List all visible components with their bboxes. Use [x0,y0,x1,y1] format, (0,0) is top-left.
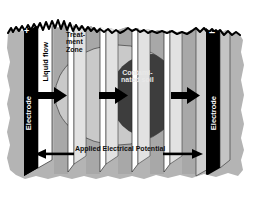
applied-potential-label: Applied Electrical Potential [75,145,165,152]
anode-sign-label: + [24,26,29,36]
cathode-sign-label: – [209,26,215,38]
electrode-left-label: Electrode [25,96,33,130]
electrode-right-label: Electrode [210,96,218,130]
treatment-zone-label: Treat- ment Zone [66,31,85,53]
contaminated-soil-label: Contami- nated soil [121,69,154,84]
electrokinetic-remediation-figure: Electrode Electrode Liquid flow + – Trea… [0,0,254,200]
liquid-flow-label: Liquid flow [42,42,50,82]
